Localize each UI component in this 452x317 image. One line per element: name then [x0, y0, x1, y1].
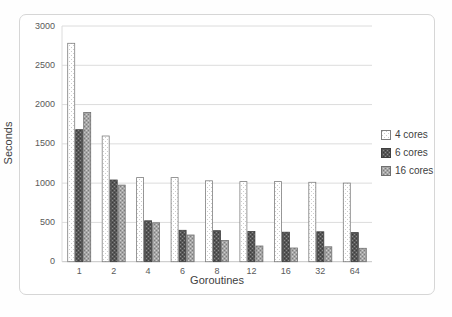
bar-6-cores-x16 [282, 232, 289, 262]
x-tick-label: 4 [133, 266, 163, 277]
x-tick-label: 2 [99, 266, 129, 277]
legend-entry-6-cores: 6 cores [381, 147, 433, 158]
bar-4-cores-x6 [171, 178, 178, 262]
bar-4-cores-x16 [274, 182, 281, 262]
bar-16-cores-x16 [290, 248, 297, 262]
bar-6-cores-x2 [110, 180, 117, 262]
x-tick-label: 1 [64, 266, 94, 277]
bar-6-cores-x4 [145, 221, 152, 262]
bar-16-cores-x12 [256, 246, 263, 262]
x-tick-label: 32 [305, 266, 335, 277]
x-tick-label: 16 [271, 266, 301, 277]
bar-4-cores-x12 [240, 182, 247, 262]
bar-6-cores-x32 [317, 232, 324, 262]
x-tick-label: 12 [236, 266, 266, 277]
legend-label: 6 cores [395, 147, 428, 158]
bar-16-cores-x4 [153, 223, 160, 262]
x-tick-label: 64 [340, 266, 370, 277]
legend-entry-16-cores: 16 cores [381, 165, 433, 176]
y-tick-label: 1000 [21, 178, 55, 189]
legend: 4 cores6 cores16 cores [381, 129, 433, 176]
x-tick-label: 8 [202, 266, 232, 277]
y-axis-title: Seconds [2, 108, 14, 178]
bar-4-cores-x32 [309, 182, 316, 261]
legend-swatch-icon [381, 130, 391, 140]
bar-6-cores-x64 [351, 233, 358, 262]
bar-6-cores-x1 [76, 130, 83, 262]
bar-16-cores-x2 [118, 185, 125, 262]
legend-swatch-icon [381, 148, 391, 158]
legend-label: 4 cores [395, 129, 428, 140]
bar-4-cores-x2 [102, 136, 109, 262]
bar-4-cores-x64 [343, 183, 350, 262]
legend-label: 16 cores [395, 165, 433, 176]
bar-6-cores-x12 [248, 232, 255, 262]
bar-16-cores-x32 [325, 247, 332, 262]
legend-swatch-icon [381, 166, 391, 176]
y-tick-label: 2000 [21, 99, 55, 110]
bar-16-cores-x6 [187, 235, 194, 262]
bar-6-cores-x6 [179, 230, 186, 261]
y-tick-label: 500 [21, 217, 55, 228]
bar-16-cores-x1 [84, 112, 91, 261]
bar-chart: Seconds Goroutines 4 cores6 cores16 core… [0, 0, 452, 317]
bar-16-cores-x64 [359, 248, 366, 261]
bar-4-cores-x4 [137, 178, 144, 262]
bar-4-cores-x8 [206, 181, 213, 262]
y-tick-label: 1500 [21, 138, 55, 149]
bar-6-cores-x8 [214, 231, 221, 262]
x-tick-label: 6 [168, 266, 198, 277]
y-tick-label: 3000 [21, 21, 55, 32]
bar-16-cores-x8 [222, 241, 229, 262]
bar-4-cores-x1 [68, 43, 75, 261]
y-tick-label: 2500 [21, 60, 55, 71]
legend-entry-4-cores: 4 cores [381, 129, 433, 140]
y-tick-label: 0 [21, 256, 55, 267]
